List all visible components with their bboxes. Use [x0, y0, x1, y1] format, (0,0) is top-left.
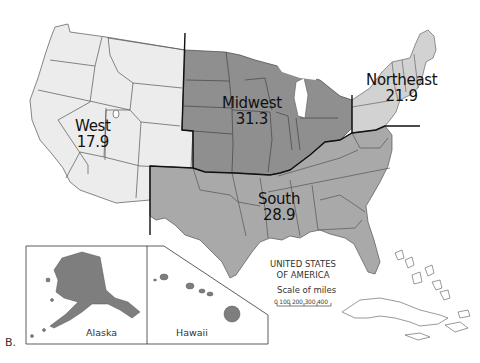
- region-label-west: West 17.9: [75, 119, 111, 150]
- region-value: 17.9: [75, 135, 111, 150]
- alaska-label: Alaska: [86, 327, 117, 338]
- country-title-line1: UNITED STATES: [270, 259, 336, 270]
- scale-ticks: 0 100 200 300 400: [274, 298, 328, 305]
- region-value: 28.9: [258, 208, 300, 223]
- country-title-line2: OF AMERICA: [270, 270, 336, 281]
- country-title: UNITED STATES OF AMERICA: [270, 259, 336, 280]
- region-name: South: [258, 192, 300, 207]
- region-value: 21.9: [366, 89, 437, 104]
- caribbean-islands: [342, 250, 470, 340]
- region-name: Midwest: [222, 96, 282, 111]
- region-label-northeast: Northeast 21.9: [366, 73, 437, 104]
- region-label-south: South 28.9: [258, 192, 300, 223]
- hawaii-label: Hawaii: [176, 327, 208, 338]
- region-label-midwest: Midwest 31.3: [222, 96, 282, 127]
- region-name: Northeast: [366, 73, 437, 88]
- region-name: West: [75, 119, 111, 134]
- us-regions-map: [0, 0, 480, 363]
- figure-letter: B.: [5, 336, 16, 349]
- region-value: 31.3: [222, 112, 282, 127]
- scale-title: Scale of miles: [277, 285, 336, 295]
